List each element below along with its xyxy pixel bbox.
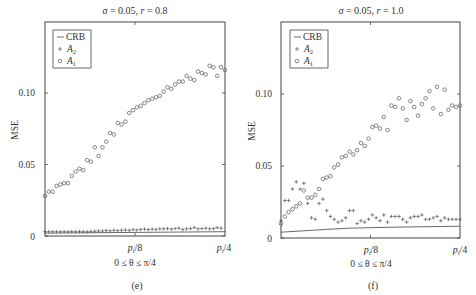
a1-circle-marker — [66, 181, 70, 185]
panel-title: σ = 0.05, r = 0.8 — [102, 5, 167, 16]
a1-circle-marker — [192, 78, 196, 82]
a1-circle-marker — [447, 108, 451, 112]
a1-circle-marker — [450, 104, 454, 108]
a2-plus-marker — [416, 215, 420, 219]
a2-plus-marker — [154, 228, 158, 232]
a1-circle-marker — [397, 97, 401, 101]
data-series — [279, 85, 462, 232]
a1-circle-marker — [359, 141, 363, 145]
a1-circle-marker — [170, 87, 174, 91]
a1-circle-marker — [412, 105, 416, 109]
a2-plus-marker — [367, 217, 371, 221]
a2-plus-marker — [298, 187, 302, 191]
a2-plus-marker — [127, 228, 131, 232]
a2-plus-marker — [208, 227, 212, 231]
a1-circle-marker — [348, 150, 352, 154]
a2-plus-marker — [166, 227, 170, 231]
a2-plus-marker — [386, 220, 390, 224]
y-axis-label: MSE — [247, 121, 257, 141]
a2-plus-marker — [458, 217, 462, 221]
a2-plus-marker — [177, 226, 181, 230]
a1-circle-marker — [344, 154, 348, 158]
a2-plus-marker — [409, 216, 413, 220]
a2-plus-marker — [420, 213, 424, 217]
a1-circle-marker — [158, 94, 162, 98]
a2-plus-marker — [428, 217, 432, 221]
a2-plus-marker — [382, 213, 386, 217]
a2-plus-marker — [336, 220, 340, 224]
a1-circle-marker — [154, 95, 158, 99]
a2-plus-marker — [112, 228, 116, 232]
a2-plus-marker — [325, 209, 329, 213]
a1-circle-marker — [127, 111, 131, 115]
a1-circle-marker — [177, 80, 181, 84]
a1-circle-marker — [306, 196, 310, 200]
a2-plus-marker — [135, 228, 139, 232]
data-series — [43, 64, 227, 233]
a2-plus-marker — [355, 222, 359, 226]
a1-circle-marker — [317, 187, 321, 191]
a1-circle-marker — [405, 118, 409, 122]
a1-circle-marker — [332, 166, 336, 170]
a1-circle-marker — [313, 193, 317, 197]
a1-circle-marker — [294, 205, 298, 209]
a2-plus-marker — [447, 217, 451, 221]
a1-circle-marker — [390, 104, 394, 108]
a2-plus-marker — [291, 187, 295, 191]
a1-circle-marker — [200, 71, 204, 75]
a1-circle-marker — [147, 98, 151, 102]
a1-circle-marker — [298, 202, 302, 206]
a2-plus-marker — [313, 217, 317, 221]
a1-circle-marker — [51, 190, 55, 194]
a2-plus-marker — [412, 215, 416, 219]
a1-circle-marker — [287, 210, 291, 214]
a1-circle-marker — [173, 83, 177, 87]
a2-plus-marker — [215, 226, 219, 230]
a1-circle-marker — [112, 133, 116, 137]
x-axis-label: 0 ≤ θ ≤ π/4 — [114, 258, 156, 268]
a1-circle-marker — [81, 168, 85, 172]
a1-circle-marker — [74, 170, 78, 174]
a2-plus-marker — [283, 199, 287, 203]
a1-circle-marker — [189, 77, 193, 81]
a1-circle-marker — [416, 114, 420, 118]
xtick-label-pi-8: pi/8 — [363, 244, 379, 257]
a1-circle-marker — [215, 74, 219, 78]
a1-circle-marker — [116, 121, 120, 125]
a2-plus-marker — [405, 220, 409, 224]
a2-plus-marker — [348, 209, 352, 213]
a1-circle-marker — [454, 105, 458, 109]
a2-plus-marker — [302, 181, 306, 185]
a1-circle-marker — [89, 160, 93, 164]
a1-circle-marker — [352, 153, 356, 157]
a2-plus-marker — [131, 228, 135, 232]
ytick-label-0: 0 — [30, 232, 35, 242]
a1-circle-marker — [59, 183, 63, 187]
xtick-label-pi-8: pi/8 — [127, 242, 143, 255]
a2-plus-marker — [393, 215, 397, 219]
a1-circle-marker — [143, 101, 147, 105]
a2-plus-marker — [454, 217, 458, 221]
a2-plus-marker — [340, 219, 344, 223]
a2-plus-marker — [332, 217, 336, 221]
ytick-label-0.05: 0.05 — [255, 161, 272, 171]
xtick-label-pi-4: pi/4 — [216, 242, 232, 255]
a2-plus-marker — [147, 228, 151, 232]
xtick-label-pi-4: pi/4 — [452, 244, 468, 257]
panel-caption: (f) — [368, 280, 378, 292]
a2-plus-marker — [431, 216, 435, 220]
a1-circle-marker — [124, 120, 128, 124]
a1-circle-marker — [374, 124, 378, 128]
a1-circle-marker — [378, 127, 382, 131]
a1-circle-marker — [424, 97, 428, 101]
a2-plus-marker — [359, 219, 363, 223]
a2-plus-marker — [378, 219, 382, 223]
a1-circle-marker — [135, 106, 139, 110]
panel-e: σ = 0.05, r = 0.8 0.10 0.05 0 MSE pi/8 p… — [10, 5, 231, 292]
a2-plus-marker — [344, 216, 348, 220]
a2-plus-marker — [120, 228, 124, 232]
a1-circle-marker — [340, 156, 344, 160]
a2-plus-marker — [390, 215, 394, 219]
a2-plus-marker — [189, 227, 193, 231]
a2-plus-marker — [139, 228, 143, 232]
